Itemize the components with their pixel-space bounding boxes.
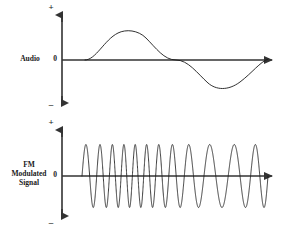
- audio-minus-sign-label: –: [45, 100, 57, 109]
- fm-plus-sign-label: +: [45, 118, 57, 127]
- audio-plus-sign-label: +: [45, 3, 57, 12]
- audio-zero-tick-label: 0: [49, 54, 61, 63]
- fm-panel-label: FM Modulated Signal: [4, 160, 54, 187]
- fm-minus-sign-label: –: [45, 218, 57, 227]
- fm-zero-tick-label: 0: [49, 170, 61, 179]
- figure-background: [0, 0, 281, 234]
- fm-modulation-figure: [0, 0, 281, 234]
- audio-panel-label: Audio: [6, 54, 54, 63]
